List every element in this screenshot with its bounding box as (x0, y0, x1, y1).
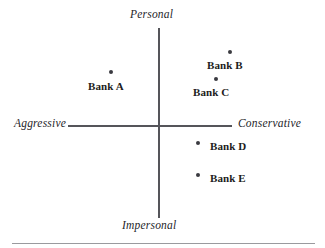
data-point-bank-e (196, 173, 200, 177)
axis-label-right: Conservative (238, 117, 301, 129)
data-point-bank-c (214, 77, 218, 81)
data-label-bank-b: Bank B (207, 59, 243, 71)
data-point-bank-d (196, 141, 200, 145)
axis-label-left: Aggressive (14, 117, 66, 129)
horizontal-axis-line (68, 125, 232, 127)
data-label-bank-a: Bank A (88, 80, 124, 92)
data-label-bank-e: Bank E (210, 172, 246, 184)
data-point-bank-a (109, 70, 113, 74)
vertical-axis-line (158, 28, 160, 218)
footer-divider (12, 243, 315, 244)
axis-label-bottom: Impersonal (122, 219, 176, 231)
perceptual-map-figure: Personal Impersonal Aggressive Conservat… (0, 0, 325, 248)
data-point-bank-b (228, 50, 232, 54)
data-label-bank-d: Bank D (210, 140, 246, 152)
data-label-bank-c: Bank C (193, 86, 229, 98)
axis-label-top: Personal (130, 8, 173, 20)
